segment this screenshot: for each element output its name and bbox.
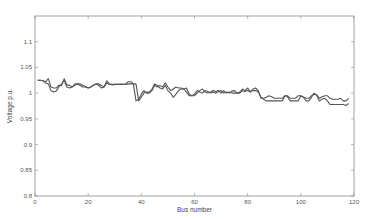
y-tick-label: 0.8	[24, 193, 33, 199]
y-tick-label: 0.85	[20, 167, 32, 173]
y-axis-label: Voltage p.u.	[6, 89, 14, 124]
voltage-chart: 020406080100120 0.80.850.90.9511.051.1 B…	[0, 0, 371, 219]
y-tick-label: 0.95	[20, 116, 32, 122]
x-tick-label: 100	[296, 199, 307, 205]
plot-area	[35, 16, 354, 196]
y-tick-label: 1	[29, 90, 33, 96]
y-tick-label: 0.9	[24, 142, 33, 148]
y-tick-label: 1.1	[24, 39, 33, 45]
x-tick-label: 40	[138, 199, 145, 205]
x-tick-label: 60	[191, 199, 198, 205]
x-tick-label: 120	[349, 199, 360, 205]
x-tick-label: 20	[85, 199, 92, 205]
y-tick-label: 1.05	[20, 64, 32, 70]
x-tick-label: 0	[33, 199, 37, 205]
x-axis-label: Bus number	[177, 206, 213, 213]
x-tick-label: 80	[244, 199, 251, 205]
